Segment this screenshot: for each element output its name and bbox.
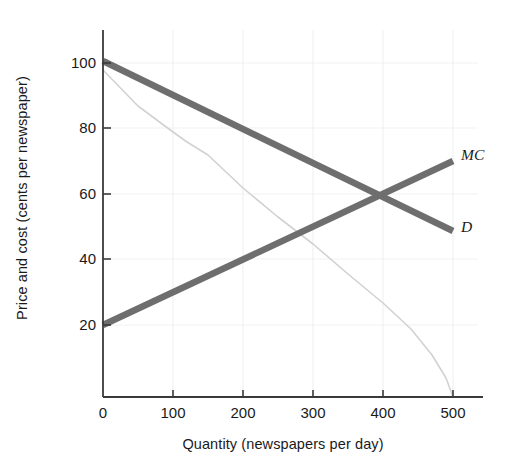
y-tick-marks <box>103 63 111 325</box>
series-d-line <box>103 61 453 231</box>
y-axis-title: Price and cost (cents per newspaper) <box>14 28 30 368</box>
series-mc-line <box>103 161 453 325</box>
x-tick-label-500: 500 <box>428 404 478 421</box>
plot-area <box>0 0 512 474</box>
series-label-d: D <box>461 218 472 236</box>
y-tick-label-60: 60 <box>46 185 96 202</box>
y-tick-label-100: 100 <box>46 54 96 71</box>
economics-supply-demand-chart: 100 80 60 40 20 0 100 200 300 400 500 MC… <box>0 0 512 474</box>
y-tick-label-20: 20 <box>46 316 96 333</box>
series-label-mc: MC <box>461 146 484 164</box>
x-tick-label-300: 300 <box>288 404 338 421</box>
y-tick-label-40: 40 <box>46 250 96 267</box>
x-tick-marks <box>173 390 453 397</box>
y-tick-label-80: 80 <box>46 119 96 136</box>
axes <box>103 30 483 397</box>
x-tick-label-400: 400 <box>358 404 408 421</box>
y-axis-title-wrapper: Price and cost (cents per newspaper) <box>0 0 40 400</box>
x-tick-label-100: 100 <box>148 404 198 421</box>
x-axis-title: Quantity (newspapers per day) <box>103 436 463 452</box>
x-tick-label-0: 0 <box>78 404 128 421</box>
x-tick-label-200: 200 <box>218 404 268 421</box>
series-mr-faint-curve <box>103 70 453 397</box>
